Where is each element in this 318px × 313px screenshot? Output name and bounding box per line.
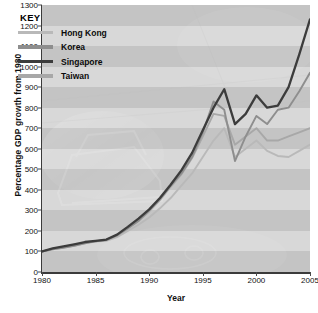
legend-label: Taiwan — [61, 71, 89, 81]
legend-item-singapore: Singapore — [18, 57, 140, 66]
y-tick-label-700: 700 — [4, 124, 38, 133]
x-tick-mark-1985 — [96, 272, 97, 276]
legend-swatch-icon — [18, 31, 53, 34]
x-axis-line — [41, 272, 310, 274]
x-axis-title: Year — [42, 293, 310, 303]
x-tick-mark-1990 — [149, 272, 150, 276]
legend-item-korea: Korea — [18, 43, 140, 52]
y-tick-label-600: 600 — [4, 144, 38, 153]
x-tick-label-1985: 1985 — [87, 276, 105, 285]
legend-swatch-icon — [18, 45, 53, 48]
y-tick-label-800: 800 — [4, 103, 38, 112]
series-line-taiwan — [42, 114, 310, 252]
y-tick-label-1300: 1300 — [4, 1, 38, 10]
legend-swatch-icon — [18, 60, 53, 63]
x-tick-mark-1995 — [203, 272, 204, 276]
legend-label: Singapore — [61, 57, 103, 67]
x-tick-label-2000: 2000 — [247, 276, 265, 285]
legend-item-taiwan: Taiwan — [18, 72, 140, 81]
legend-title: KEY — [20, 12, 140, 23]
y-tick-label-400: 400 — [4, 185, 38, 194]
y-tick-label-300: 300 — [4, 206, 38, 215]
gdp-growth-line-chart: Percentage GDP growth from 1980 01002003… — [0, 0, 318, 313]
chart-legend: KEY Hong KongKoreaSingaporeTaiwan — [18, 12, 140, 86]
legend-swatch-icon — [18, 74, 53, 77]
series-line-hong-kong — [42, 128, 310, 251]
x-tick-mark-1980 — [42, 272, 43, 276]
legend-items: Hong KongKoreaSingaporeTaiwan — [18, 28, 140, 81]
x-tick-label-2005: 2005 — [301, 276, 318, 285]
x-tick-mark-2005 — [310, 272, 311, 276]
x-tick-label-1995: 1995 — [194, 276, 212, 285]
x-tick-label-1980: 1980 — [33, 276, 51, 285]
legend-label: Hong Kong — [61, 28, 107, 38]
series-line-korea — [42, 73, 310, 252]
y-tick-label-200: 200 — [4, 226, 38, 235]
y-tick-label-500: 500 — [4, 165, 38, 174]
y-tick-label-100: 100 — [4, 247, 38, 256]
x-tick-mark-2000 — [256, 272, 257, 276]
legend-label: Korea — [61, 42, 85, 52]
legend-item-hong-kong: Hong Kong — [18, 28, 140, 37]
x-tick-label-1990: 1990 — [140, 276, 158, 285]
